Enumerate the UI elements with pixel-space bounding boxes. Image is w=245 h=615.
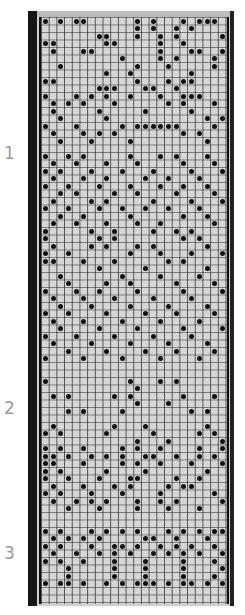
punch-hole <box>158 221 163 226</box>
punch-hole <box>43 469 48 474</box>
punch-hole <box>151 26 156 31</box>
punch-hole <box>205 214 210 219</box>
punch-hole <box>158 319 163 324</box>
hole-grid <box>41 17 228 604</box>
punch-hole <box>212 161 217 166</box>
punch-hole <box>51 41 56 46</box>
punch-hole <box>97 289 102 294</box>
punch-hole <box>51 341 56 346</box>
punch-hole <box>205 409 210 414</box>
punch-hole <box>174 499 179 504</box>
punch-hole <box>128 476 133 481</box>
punch-hole <box>104 94 109 99</box>
punch-hole <box>43 431 48 436</box>
punch-hole <box>112 559 117 564</box>
punch-hole <box>104 86 109 91</box>
punch-hole <box>128 484 133 489</box>
punch-hole <box>181 551 186 556</box>
punch-hole <box>66 476 71 481</box>
punch-hole <box>220 34 225 39</box>
punch-hole <box>81 484 86 489</box>
punch-hole <box>66 311 71 316</box>
punch-hole <box>158 446 163 451</box>
punch-hole <box>128 184 133 189</box>
left-dark-band <box>28 11 37 606</box>
punch-hole <box>104 469 109 474</box>
punch-hole <box>174 544 179 549</box>
punch-hole <box>66 206 71 211</box>
punch-hole <box>181 259 186 264</box>
punch-hole <box>58 116 63 121</box>
punch-hole <box>58 19 63 24</box>
punch-hole <box>189 199 194 204</box>
punch-hole <box>89 304 94 309</box>
punch-hole <box>89 139 94 144</box>
punch-hole <box>66 536 71 541</box>
punch-hole <box>151 454 156 459</box>
punch-hole <box>74 19 79 24</box>
punch-hole <box>158 49 163 54</box>
punch-hole <box>158 124 163 129</box>
punch-hole <box>43 236 48 241</box>
punch-hole <box>174 191 179 196</box>
punch-hole <box>66 349 71 354</box>
punch-hole <box>135 289 140 294</box>
punch-hole <box>197 19 202 24</box>
punch-hole <box>81 559 86 564</box>
punch-hole <box>104 161 109 166</box>
punch-hole <box>51 551 56 556</box>
punch-hole <box>135 244 140 249</box>
punch-hole <box>66 251 71 256</box>
punch-hole <box>205 469 210 474</box>
punch-hole <box>74 191 79 196</box>
punch-hole <box>81 154 86 159</box>
punch-hole <box>143 266 148 271</box>
punch-hole <box>104 529 109 534</box>
punch-hole <box>135 401 140 406</box>
punch-hole <box>189 79 194 84</box>
punch-hole <box>89 169 94 174</box>
punch-hole <box>220 566 225 571</box>
punch-hole <box>158 491 163 496</box>
punch-hole <box>58 64 63 69</box>
punch-hole <box>174 34 179 39</box>
punch-hole <box>197 454 202 459</box>
punch-hole <box>43 476 48 481</box>
punch-hole <box>120 274 125 279</box>
punch-hole <box>89 544 94 549</box>
punch-hole <box>205 341 210 346</box>
punch-hole <box>174 124 179 129</box>
punch-hole <box>212 431 217 436</box>
punch-hole <box>143 566 148 571</box>
punch-hole <box>97 266 102 271</box>
punch-hole <box>197 319 202 324</box>
punch-hole <box>51 131 56 136</box>
punch-hole <box>120 206 125 211</box>
punch-hole <box>58 431 63 436</box>
punch-hole <box>81 446 86 451</box>
punch-hole <box>181 131 186 136</box>
punch-hole <box>143 109 148 114</box>
punch-hole <box>220 49 225 54</box>
punch-hole <box>51 461 56 466</box>
punch-hole <box>151 169 156 174</box>
punch-hole <box>212 221 217 226</box>
grid-left-border <box>39 17 41 604</box>
punch-hole <box>43 229 48 234</box>
punch-hole <box>89 49 94 54</box>
punch-hole <box>120 544 125 549</box>
punch-hole <box>197 176 202 181</box>
punch-hole <box>74 551 79 556</box>
punch-hole <box>112 229 117 234</box>
punch-hole <box>174 281 179 286</box>
punch-hole <box>112 551 117 556</box>
punch-hole <box>74 334 79 339</box>
punch-hole <box>158 356 163 361</box>
punch-hole <box>112 296 117 301</box>
punch-hole <box>143 206 148 211</box>
punch-hole <box>120 319 125 324</box>
punch-hole <box>74 289 79 294</box>
punch-hole <box>97 236 102 241</box>
punch-hole <box>74 221 79 226</box>
punch-hole <box>120 581 125 586</box>
